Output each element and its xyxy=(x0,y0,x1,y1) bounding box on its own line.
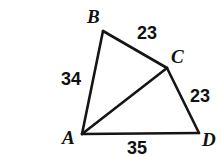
vertex-label-c: C xyxy=(171,47,184,66)
edge-BC xyxy=(103,31,167,68)
vertex-label-b: B xyxy=(87,7,100,26)
vertex-label-d: D xyxy=(202,130,216,149)
side-length-cd: 23 xyxy=(190,87,210,105)
side-length-ab: 34 xyxy=(61,70,81,88)
geometry-canvas xyxy=(0,0,221,156)
geometry-figure: A B C D 34 23 23 35 xyxy=(0,0,221,156)
edge-AD xyxy=(82,133,199,134)
side-length-ad: 35 xyxy=(127,139,147,156)
side-length-bc: 23 xyxy=(137,24,157,42)
vertex-label-a: A xyxy=(62,128,75,147)
